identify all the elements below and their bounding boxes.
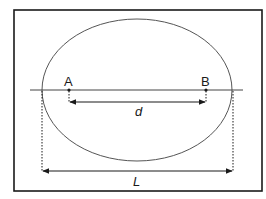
diagram-canvas: A B d L <box>0 0 266 199</box>
label-l: L <box>133 174 140 189</box>
label-a: A <box>64 74 73 89</box>
frame-border <box>14 10 262 191</box>
label-b: B <box>201 74 210 89</box>
label-d: d <box>135 104 143 119</box>
